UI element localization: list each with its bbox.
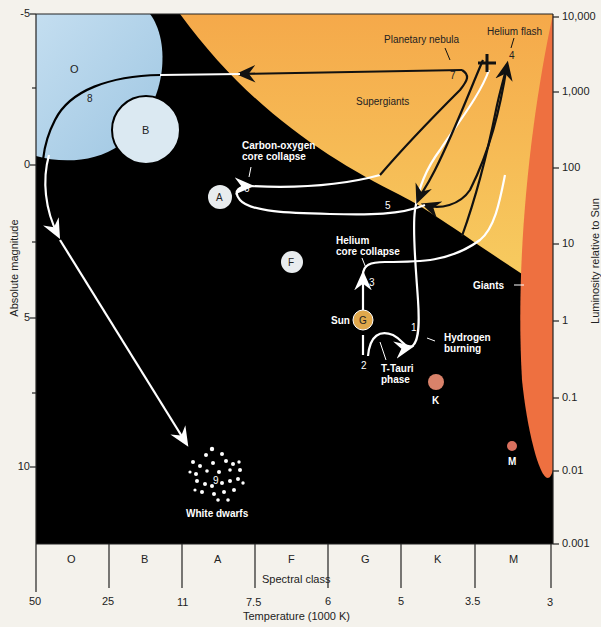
temp-tick-6: 6 bbox=[325, 595, 331, 607]
m-star bbox=[507, 441, 517, 451]
helium-flash-label: Helium flash bbox=[487, 26, 542, 37]
temp-tick-3: 3 bbox=[547, 596, 553, 608]
f-star-label: F bbox=[288, 257, 294, 268]
temperature-title: Temperature (1000 K) bbox=[243, 610, 350, 622]
k-star bbox=[428, 374, 444, 390]
stage-2: 2 bbox=[361, 360, 367, 371]
stage-3: 3 bbox=[369, 277, 375, 288]
spectral-class-b: B bbox=[141, 553, 148, 565]
ttauri-label-1: T-Tauri bbox=[381, 363, 414, 374]
stage-5: 5 bbox=[385, 200, 391, 211]
b-star-label: B bbox=[142, 125, 149, 136]
m-star-label: M bbox=[508, 456, 516, 467]
left-axis-title: Absolute magnitude bbox=[8, 218, 20, 318]
temp-tick-50: 50 bbox=[29, 595, 41, 607]
stage-7: 7 bbox=[450, 70, 456, 81]
right-tick-1000: 1,000 bbox=[562, 85, 590, 97]
right-tick-0-01: 0.01 bbox=[562, 464, 583, 476]
right-tick-0-1: 0.1 bbox=[562, 391, 577, 403]
left-tick-minus5: -5 bbox=[2, 7, 30, 19]
white-dwarfs-label: White dwarfs bbox=[186, 508, 248, 519]
ttauri-label-2: phase bbox=[381, 374, 410, 385]
right-tick-10: 10 bbox=[562, 237, 574, 249]
right-tick-10000: 10,000 bbox=[562, 10, 596, 22]
left-tick-0: 0 bbox=[2, 158, 30, 170]
left-tick-10: 10 bbox=[2, 460, 30, 472]
spectral-class-f: F bbox=[288, 553, 295, 565]
temp-tick-3-5: 3.5 bbox=[465, 595, 480, 607]
temp-tick-11: 11 bbox=[177, 596, 188, 608]
temp-tick-25: 25 bbox=[102, 595, 114, 607]
a-star-label: A bbox=[216, 192, 223, 203]
helium-core-label-2: core collapse bbox=[336, 246, 400, 257]
stage-4: 4 bbox=[509, 50, 515, 61]
carbon-oxygen-label-2: core collapse bbox=[242, 151, 306, 162]
right-tick-1: 1 bbox=[562, 314, 568, 326]
spectral-class-k: K bbox=[434, 553, 441, 565]
planetary-nebula-label: Planetary nebula bbox=[384, 34, 459, 45]
right-axis-title: Luminosity relative to Sun bbox=[589, 196, 601, 326]
temp-tick-5: 5 bbox=[398, 595, 404, 607]
spectral-class-m: M bbox=[509, 553, 518, 565]
right-tick-0-001: 0.001 bbox=[562, 537, 590, 549]
spectral-class-title: Spectral class bbox=[262, 573, 330, 585]
hydrogen-burning-label-2: burning bbox=[444, 343, 481, 354]
right-tick-100: 100 bbox=[562, 161, 580, 173]
stage-6: 6 bbox=[244, 183, 250, 194]
spectral-class-g: G bbox=[361, 553, 370, 565]
temp-tick-7-5: 7.5 bbox=[246, 596, 261, 608]
g-star-label: G bbox=[359, 315, 367, 326]
spectral-class-a: A bbox=[214, 553, 221, 565]
sun-label: Sun bbox=[331, 315, 350, 326]
giants-label: Giants bbox=[473, 280, 504, 291]
k-star-label: K bbox=[432, 395, 439, 406]
spectral-class-o: O bbox=[67, 553, 76, 565]
supergiants-label: Supergiants bbox=[356, 96, 409, 107]
hydrogen-burning-label-1: Hydrogen bbox=[444, 332, 491, 343]
stage-8: 8 bbox=[87, 93, 93, 104]
helium-core-label-1: Helium bbox=[336, 235, 369, 246]
stage-1: 1 bbox=[411, 322, 417, 333]
o-star-label: O bbox=[70, 64, 79, 75]
stage-9: 9 bbox=[213, 475, 219, 486]
carbon-oxygen-label-1: Carbon-oxygen bbox=[242, 140, 315, 151]
hr-diagram: -5 0 5 10 Absolute magnitude 10,000 1,00… bbox=[0, 0, 601, 627]
